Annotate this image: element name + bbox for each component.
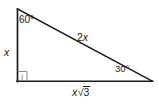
side-label-left-leg: x: [4, 47, 9, 58]
right-angle-mark-icon: [18, 72, 28, 82]
radicand-value: 3: [83, 86, 90, 98]
angle-label-60: 60°: [19, 15, 34, 25]
triangle-hypotenuse: [18, 9, 153, 81]
side-label-hypotenuse: 2x: [77, 32, 88, 43]
hypotenuse-variable: x: [83, 31, 88, 43]
radical-expression: √3: [77, 86, 90, 98]
triangle-figure: 60° 30° x 2x x√3: [0, 0, 159, 106]
angle-label-30: 30°: [115, 64, 129, 74]
side-label-base-leg: x√3: [72, 86, 90, 98]
